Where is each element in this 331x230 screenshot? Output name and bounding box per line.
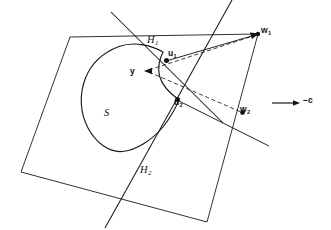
label-point-w1: w1 <box>261 26 271 35</box>
plane-quadrilateral <box>21 34 258 222</box>
label-point-u1: u1 <box>168 49 176 58</box>
arrowhead-at-y <box>144 68 152 74</box>
point-w1-marker <box>256 32 260 36</box>
dashed-ray-y-to-w2 <box>149 72 241 112</box>
label-w1-subscript: 1 <box>268 30 271 36</box>
direction-arrow-head <box>293 100 300 106</box>
label-point-w2: w2 <box>240 105 250 114</box>
label-u1-base: u <box>168 48 173 58</box>
label-set-s: S <box>104 108 109 119</box>
convex-set-s-outline <box>81 44 178 152</box>
hyperplane-h2-line <box>105 0 232 228</box>
label-h1-subscript: 1 <box>155 39 158 46</box>
dashed-ray-y-to-w1 <box>149 35 256 70</box>
label-h1-base: H <box>147 34 155 45</box>
hyperplane-h1-line <box>111 12 223 123</box>
label-u1-subscript: 1 <box>174 53 177 59</box>
label-w2-subscript: 2 <box>247 109 250 115</box>
label-h2-subscript: 2 <box>148 169 151 176</box>
label-u2-subscript: 2 <box>180 102 183 108</box>
label-w1-base: w <box>261 25 268 35</box>
label-u2-base: u <box>174 97 179 107</box>
ray-u1-to-w1 <box>166 35 257 62</box>
label-point-y: y <box>130 67 135 76</box>
label-point-u2: u2 <box>174 98 182 107</box>
point-u1-marker <box>164 58 169 63</box>
label-w2-base: w <box>240 104 247 114</box>
diagram-canvas <box>0 0 331 230</box>
label-direction-vector: −c <box>303 96 313 105</box>
label-hyperplane-h2: H2 <box>140 165 151 176</box>
figure-container: H1 H2 S y u1 u2 w1 w2 −c <box>0 0 331 230</box>
label-hyperplane-h1: H1 <box>147 35 158 46</box>
label-h2-base: H <box>140 164 148 175</box>
ray-u2-through-w2 <box>177 100 269 146</box>
